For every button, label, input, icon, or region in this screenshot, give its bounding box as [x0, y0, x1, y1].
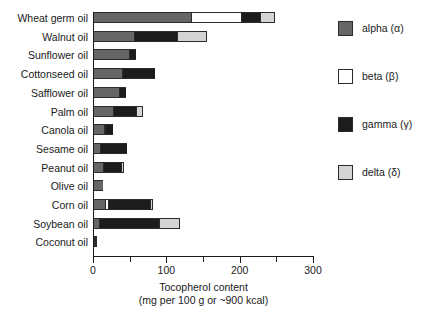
bar-row: [93, 12, 275, 23]
y-axis-label: Sesame oil: [0, 144, 88, 155]
legend-label: beta (β): [362, 70, 398, 82]
legend-label: gamma (γ): [362, 118, 412, 130]
bar-segment-gamma: [129, 49, 136, 60]
bar-row: [93, 162, 124, 173]
legend-item[interactable]: gamma (γ): [338, 116, 412, 132]
bar-segment-alpha: [93, 31, 134, 42]
bar-segment-gamma: [122, 68, 154, 79]
x-axis-title-line2: (mg per 100 g or ~900 kcal): [93, 294, 314, 307]
bar-segment-gamma: [113, 106, 136, 117]
y-axis-label: Olive oil: [0, 181, 88, 192]
bar-row: [93, 49, 136, 60]
y-axis-label: Cottonseed oil: [0, 69, 88, 80]
bar-row: [93, 143, 127, 154]
plot-area: [93, 12, 313, 256]
legend-swatch-icon: [338, 21, 353, 36]
y-axis-label: Safflower oil: [0, 88, 88, 99]
legend-label: alpha (α): [362, 22, 404, 34]
x-axis-tick: [93, 256, 94, 263]
x-axis-tick-label: 100: [146, 264, 186, 276]
bar-segment-alpha: [93, 68, 122, 79]
bar-segment-delta: [159, 218, 180, 229]
x-axis-title-line1: Tocopherol content: [159, 281, 248, 293]
x-axis-tick: [240, 256, 241, 263]
bar-segment-alpha: [93, 180, 103, 191]
legend-item[interactable]: delta (δ): [338, 164, 401, 180]
x-axis-tick: [313, 256, 314, 263]
bar-row: [93, 218, 180, 229]
bar-row: [93, 180, 103, 191]
bar-row: [93, 68, 155, 79]
y-axis-label: Corn oil: [0, 200, 88, 211]
bar-segment-alpha: [93, 124, 104, 135]
legend-swatch-icon: [338, 69, 353, 84]
bar-segment-delta: [121, 162, 124, 173]
tocopherol-bar-chart: Wheat germ oilWalnut oilSunflower oilCot…: [0, 0, 432, 323]
legend-swatch-icon: [338, 117, 353, 132]
x-axis-tick-label: 0: [73, 264, 113, 276]
y-axis-label: Palm oil: [0, 107, 88, 118]
bar-segment-gamma: [241, 12, 260, 23]
bar-segment-gamma: [134, 31, 177, 42]
bar-segment-delta: [150, 199, 153, 210]
bar-segment-gamma: [105, 124, 112, 135]
x-axis-title: Tocopherol content (mg per 100 g or ~900…: [93, 281, 314, 307]
y-axis-category-labels: Wheat germ oilWalnut oilSunflower oilCot…: [0, 12, 88, 256]
bar-segment-delta: [136, 106, 143, 117]
bar-segment-alpha: [93, 49, 129, 60]
bar-segment-gamma: [119, 87, 126, 98]
x-axis-tick-label: 200: [220, 264, 260, 276]
bar-segment-gamma: [103, 162, 121, 173]
bar-segment-alpha: [93, 143, 100, 154]
x-axis-tick: [276, 256, 277, 262]
bar-segment-alpha: [93, 162, 103, 173]
bar-segment-gamma: [99, 218, 159, 229]
legend-swatch-icon: [338, 165, 353, 180]
bar-segment-delta: [177, 31, 206, 42]
legend-label: delta (δ): [362, 166, 401, 178]
x-axis-tick: [166, 256, 167, 263]
legend: alpha (α)beta (β)gamma (γ)delta (δ): [338, 20, 430, 210]
bar-row: [93, 199, 153, 210]
y-axis-line: [93, 12, 94, 257]
x-axis-tick: [203, 256, 204, 262]
y-axis-label: Canola oil: [0, 125, 88, 136]
bar-row: [93, 106, 143, 117]
x-axis-tick: [130, 256, 131, 262]
y-axis-label: Walnut oil: [0, 32, 88, 43]
y-axis-label: Wheat germ oil: [0, 13, 88, 24]
bar-segment-gamma: [100, 143, 127, 154]
bar-segment-alpha: [93, 199, 105, 210]
bar-segment-alpha: [93, 12, 191, 23]
y-axis-label: Coconut oil: [0, 237, 88, 248]
bar-row: [93, 31, 207, 42]
bar-segment-alpha: [93, 87, 119, 98]
bar-segment-beta: [191, 12, 242, 23]
y-axis-label: Soybean oil: [0, 219, 88, 230]
y-axis-label: Sunflower oil: [0, 50, 88, 61]
bar-segment-gamma: [108, 199, 151, 210]
bar-segment-delta: [260, 12, 275, 23]
x-axis-tick-label: 300: [293, 264, 333, 276]
bar-segment-alpha: [93, 106, 113, 117]
bar-segment-delta: [95, 236, 97, 247]
legend-item[interactable]: beta (β): [338, 68, 398, 84]
bar-row: [93, 124, 113, 135]
bar-row: [93, 87, 126, 98]
legend-item[interactable]: alpha (α): [338, 20, 404, 36]
y-axis-label: Peanut oil: [0, 163, 88, 174]
